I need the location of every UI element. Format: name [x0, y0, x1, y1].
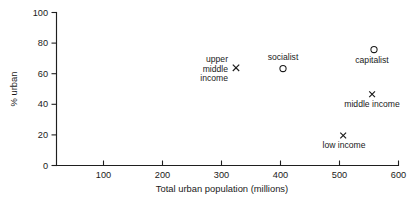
x-tick-label-300: 300 — [214, 170, 229, 180]
x-tick-label-100: 100 — [96, 170, 111, 180]
plot-area: 100 80 60 40 20 0 100 200 300 400 500 60… — [0, 0, 420, 218]
x-tick-label-200: 200 — [155, 170, 170, 180]
y-tick-label-20: 20 — [38, 130, 48, 140]
data-point-socialist: socialist — [268, 52, 299, 72]
y-tick-label-40: 40 — [38, 99, 48, 109]
point-label-middle: middle — [203, 64, 229, 74]
point-label-capitalist: capitalist — [355, 55, 389, 65]
circle-marker — [371, 46, 377, 52]
data-point-low-income: low income — [323, 133, 366, 150]
y-tick-label-60: 60 — [38, 69, 48, 79]
point-label-low-income: low income — [323, 140, 366, 150]
y-axis-title: % urban — [8, 72, 19, 107]
x-tick-label-600: 600 — [391, 170, 406, 180]
data-point-capitalist: capitalist — [355, 46, 389, 65]
y-tick-label-100: 100 — [33, 8, 48, 18]
circle-marker — [280, 65, 286, 71]
data-point-upper-middle-income: upper middle income — [200, 54, 239, 83]
point-label-income: income — [200, 73, 228, 83]
point-label-upper: upper — [206, 54, 228, 64]
x-axis-ticks — [104, 161, 399, 166]
data-point-middle-income: middle income — [344, 91, 400, 109]
y-axis-ticks — [52, 13, 57, 166]
y-tick-label-80: 80 — [38, 38, 48, 48]
point-label-middle-income: middle income — [344, 99, 400, 109]
x-tick-label-500: 500 — [332, 170, 347, 180]
x-axis-title: Total urban population (millions) — [156, 183, 288, 194]
point-label-socialist: socialist — [268, 52, 299, 62]
x-tick-label-400: 400 — [273, 170, 288, 180]
scatter-chart: 100 80 60 40 20 0 100 200 300 400 500 60… — [0, 0, 420, 218]
y-tick-label-0: 0 — [43, 161, 48, 171]
